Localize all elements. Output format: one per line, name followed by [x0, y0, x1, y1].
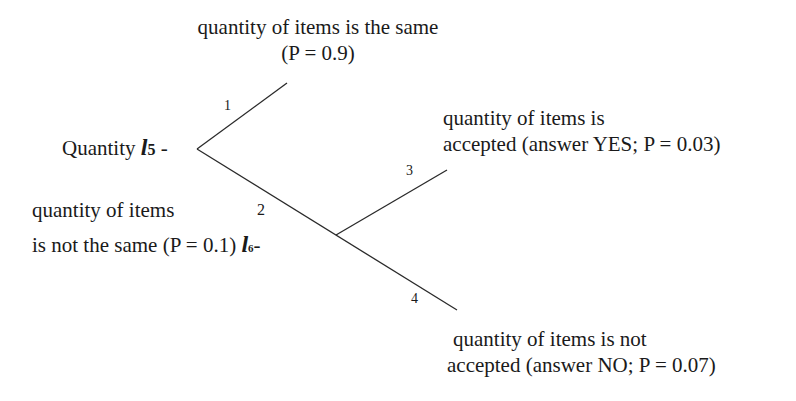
- branch-1-label-line2: (P = 0.9): [170, 40, 466, 66]
- branch-3-label-line2: accepted (answer YES; P = 0.03): [443, 131, 720, 157]
- node-l6-suffix: -: [254, 233, 261, 257]
- root-text: Quantity: [62, 136, 136, 160]
- branch-4-label-line1: quantity of items is not: [447, 326, 716, 352]
- branch-2-label: quantity of items is not the same (P = 0…: [32, 197, 261, 261]
- branch-1-label: quantity of items is the same (P = 0.9): [170, 14, 466, 66]
- branch-4-number: 4: [411, 291, 418, 307]
- root-suffix: -: [155, 136, 167, 160]
- root-variable: l5: [141, 134, 156, 160]
- branch-2-label-line2: is not the same (P = 0.1) l6-: [32, 231, 261, 261]
- branch-2-label-line1: quantity of items: [32, 197, 261, 223]
- root-node-label: Quantity l5 -: [62, 134, 168, 163]
- node-l6-variable: l6: [241, 231, 253, 257]
- branch-1-label-line1: quantity of items is the same: [170, 14, 466, 40]
- branch-3-number: 3: [406, 163, 413, 179]
- branch-2-number: 2: [257, 202, 265, 218]
- edge-3: [336, 170, 447, 235]
- edge-1: [197, 83, 287, 149]
- branch-3-label: quantity of items is accepted (answer YE…: [443, 105, 720, 157]
- branch-1-number: 1: [224, 98, 231, 114]
- branch-3-label-line1: quantity of items is: [443, 105, 720, 131]
- branch-4-label: quantity of items is not accepted (answe…: [447, 326, 716, 378]
- branch-4-label-line2: accepted (answer NO; P = 0.07): [447, 352, 716, 378]
